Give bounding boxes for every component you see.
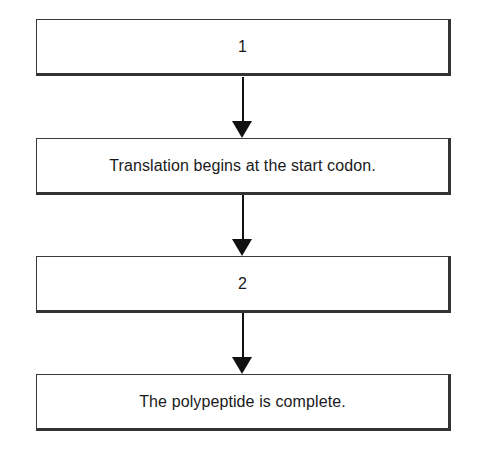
arrow-down-icon — [232, 313, 253, 374]
arrow-down-icon — [232, 195, 253, 256]
step-label-2: Translation begins at the start codon. — [109, 157, 375, 175]
step-box-3: 2 — [36, 256, 451, 313]
step-label-4: The polypeptide is complete. — [139, 393, 345, 411]
step-label-1: 1 — [238, 38, 247, 56]
step-box-4: The polypeptide is complete. — [36, 374, 451, 431]
step-box-1: 1 — [36, 19, 451, 76]
arrow-down-icon — [232, 77, 253, 138]
step-label-3: 2 — [238, 275, 247, 293]
step-box-2: Translation begins at the start codon. — [36, 138, 451, 195]
